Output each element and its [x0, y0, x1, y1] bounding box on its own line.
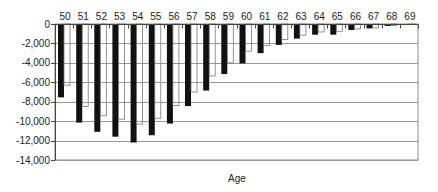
bar-series1 — [203, 24, 209, 91]
x-category-label: 54 — [132, 11, 144, 22]
bar-series1 — [58, 24, 64, 97]
bar-series1 — [112, 24, 118, 137]
x-category-label: 67 — [368, 11, 380, 22]
x-category-label: 60 — [241, 11, 253, 22]
bar-series1 — [240, 24, 246, 63]
y-tick-label: -14,000 — [16, 155, 50, 166]
bar-series1 — [330, 24, 336, 35]
x-category-label: 64 — [314, 11, 326, 22]
x-category-label: 65 — [332, 11, 344, 22]
x-category-label: 66 — [350, 11, 362, 22]
bar-series1 — [185, 24, 191, 106]
y-tick-label: -6,000 — [22, 77, 51, 88]
bar-series1 — [76, 24, 82, 123]
x-category-label: 56 — [168, 11, 180, 22]
y-tick-label: -12,000 — [16, 135, 50, 146]
x-category-label: 62 — [277, 11, 289, 22]
y-axis-tick-labels: 0-2,000-4,000-6,000-8,000-10,000-12,000-… — [16, 19, 50, 166]
x-category-label: 68 — [386, 11, 398, 22]
bar-series1 — [276, 24, 282, 45]
bar-series1 — [167, 24, 173, 124]
x-axis-category-labels: 5051525354555657585960616263646566676869 — [60, 11, 416, 22]
x-category-label: 57 — [187, 11, 199, 22]
x-category-label: 59 — [223, 11, 235, 22]
gridlines — [55, 24, 418, 161]
plot-area — [55, 24, 418, 160]
x-category-label: 52 — [96, 11, 108, 22]
x-category-label: 69 — [404, 11, 416, 22]
x-category-label: 61 — [259, 11, 271, 22]
x-category-label: 55 — [150, 11, 162, 22]
x-category-label: 50 — [60, 11, 72, 22]
x-category-label: 53 — [114, 11, 126, 22]
bar-series1 — [149, 24, 155, 135]
y-tick-label: -2,000 — [22, 38, 51, 49]
bar-series1 — [94, 24, 100, 132]
bar-chart: 0-2,000-4,000-6,000-8,000-10,000-12,000-… — [0, 0, 438, 192]
bar-series1 — [131, 24, 137, 143]
bar-series1 — [294, 24, 300, 39]
bar-series1 — [221, 24, 227, 74]
y-tick-label: -4,000 — [22, 57, 51, 68]
y-tick-label: 0 — [44, 19, 50, 30]
x-category-label: 51 — [78, 11, 90, 22]
y-tick-label: -8,000 — [22, 96, 51, 107]
bar-series1 — [312, 24, 318, 35]
x-axis-title: Age — [228, 173, 246, 184]
bar-series1 — [258, 24, 264, 53]
x-category-label: 63 — [295, 11, 307, 22]
x-category-label: 58 — [205, 11, 217, 22]
y-tick-label: -10,000 — [16, 116, 50, 127]
